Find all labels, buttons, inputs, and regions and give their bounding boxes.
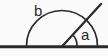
small-angle-arc: [73, 35, 77, 46]
angle-label-a: a: [81, 27, 89, 42]
angle-label-b: b: [34, 3, 42, 18]
angle-diagram: b a: [0, 0, 108, 56]
angle-diagram-canvas: [0, 0, 108, 56]
